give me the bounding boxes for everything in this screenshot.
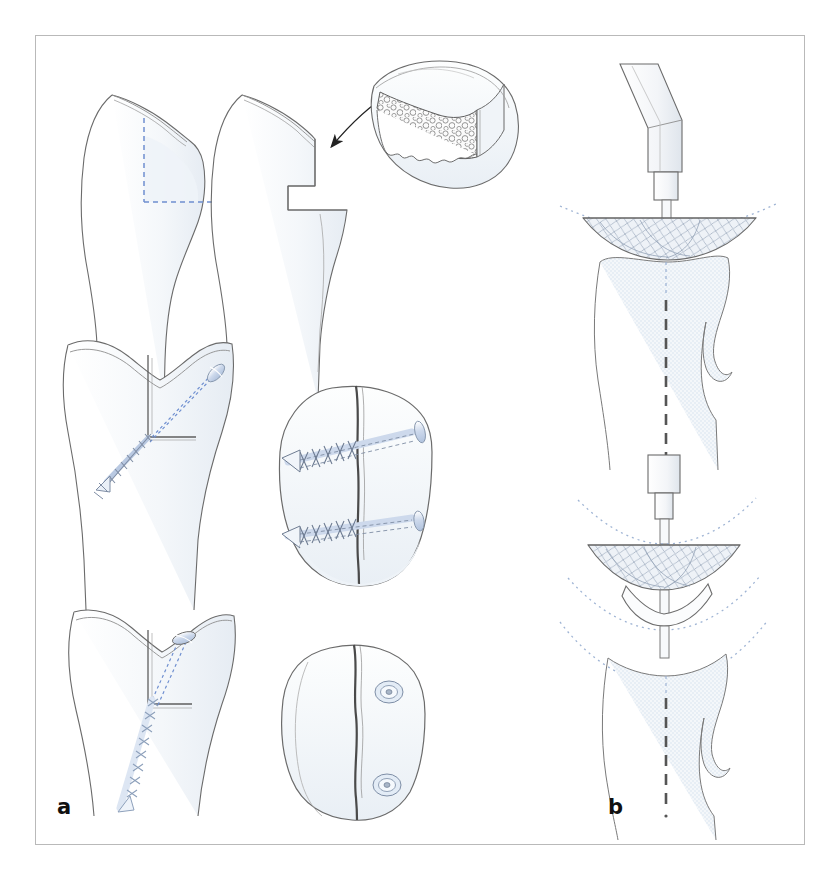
- screw-head-axial-upper[interactable]: [375, 681, 403, 703]
- step-long-screw-fixation-frontal: [69, 610, 235, 816]
- screw-head-axial-lower[interactable]: [373, 774, 401, 796]
- reamer-handpiece-upper: [620, 64, 682, 222]
- panel-a: [64, 61, 519, 820]
- step-reaming-depth-planning: [560, 455, 768, 684]
- figure-illustration: [0, 0, 830, 874]
- panel-label-b: b: [608, 795, 623, 819]
- step-bone-block-graft: [371, 61, 518, 188]
- panel-label-a: a: [57, 795, 71, 819]
- reamer-head-lower: [588, 545, 740, 590]
- step-two-screw-fixation-axial: [280, 386, 432, 586]
- figure-root: a b: [0, 0, 830, 874]
- panel-b: [560, 64, 776, 840]
- reamer-head-upper: [583, 218, 756, 260]
- step-oblique-screw-fixation-frontal: [64, 341, 234, 610]
- step-reamer-engaged: [560, 64, 776, 474]
- step-screw-heads-axial: [282, 645, 425, 820]
